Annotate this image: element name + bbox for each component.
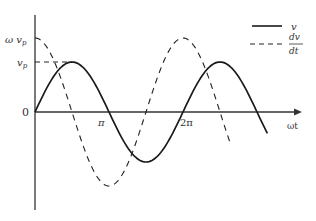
x-axis-label: ωt [287, 121, 298, 131]
two-pi-tick-label: 2π [180, 117, 193, 128]
legend-v-label: v [291, 21, 297, 32]
pi-tick-label: π [97, 117, 105, 128]
wvp-label: ω vp [5, 34, 27, 47]
legend-dvdt-denominator: dt [289, 46, 299, 56]
legend: v dv dt [250, 21, 303, 56]
chart: 0 vp ω vp π 2π ωt v dv dt [0, 0, 316, 221]
legend-dvdt-numerator: dv [289, 32, 300, 42]
vp-label: vp [17, 57, 28, 70]
origin-label: 0 [22, 106, 29, 119]
x-axis-arrow-icon [294, 109, 302, 116]
